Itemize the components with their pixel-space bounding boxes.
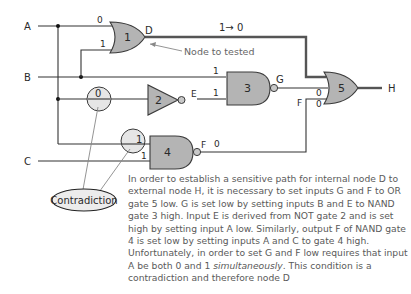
not-gate-2 xyxy=(148,85,178,115)
paragraph-text: In order to establish a sensitive path f… xyxy=(128,173,408,271)
nand-gate-4 xyxy=(150,136,193,169)
gate-1-number: 1 xyxy=(124,31,131,44)
value-g5-F: 0 xyxy=(316,99,322,109)
node-E-label: E xyxy=(191,89,197,99)
explanation-paragraph: In order to establish a sensitive path f… xyxy=(128,173,411,285)
junction-dot xyxy=(56,24,60,28)
circle-value-1: 1 xyxy=(136,134,142,145)
value-g4-C: 1 xyxy=(141,151,147,161)
node-D-label: D xyxy=(145,25,153,36)
logic-circuit-diagram: 1 2 3 4 5 0 1 Contradiction Node to test… xyxy=(0,0,411,294)
gate-3-number: 3 xyxy=(244,82,251,95)
wire-D xyxy=(145,37,326,77)
value-g3-B: 1 xyxy=(213,66,219,76)
value-g1-B: 1 xyxy=(100,39,106,49)
D-transition-value: 1→ 0 xyxy=(219,22,243,33)
input-C-label: C xyxy=(24,156,31,167)
gate-4-number: 4 xyxy=(164,146,171,159)
output-H-label: H xyxy=(388,83,396,94)
wire-B-to-g1 xyxy=(81,50,112,77)
input-A-label: A xyxy=(24,21,31,32)
node-G-label: G xyxy=(276,74,284,85)
node-F-label: F xyxy=(201,140,206,150)
gate-2-number: 2 xyxy=(155,94,162,107)
circle-value-0: 0 xyxy=(95,88,101,99)
pointer-line xyxy=(82,107,98,195)
pointer-line xyxy=(97,149,130,195)
gate-5-number: 5 xyxy=(338,82,345,95)
value-F-out: 0 xyxy=(214,139,220,149)
value-g3-E: 1 xyxy=(213,88,219,98)
node-F-label-gate5: F xyxy=(297,98,302,108)
paragraph-emphasis: simultaneously xyxy=(213,260,283,271)
arrowhead-icon xyxy=(150,42,156,47)
node-to-test-label: Node to tested xyxy=(184,46,255,57)
input-B-label: B xyxy=(24,72,31,83)
contradiction-label: Contradiction xyxy=(50,195,117,206)
inverter-bubble xyxy=(178,97,185,104)
inverter-bubble xyxy=(270,84,277,91)
value-g5-G: 0 xyxy=(316,88,322,98)
value-g1-A: 0 xyxy=(97,15,103,25)
inverter-bubble xyxy=(193,148,200,155)
